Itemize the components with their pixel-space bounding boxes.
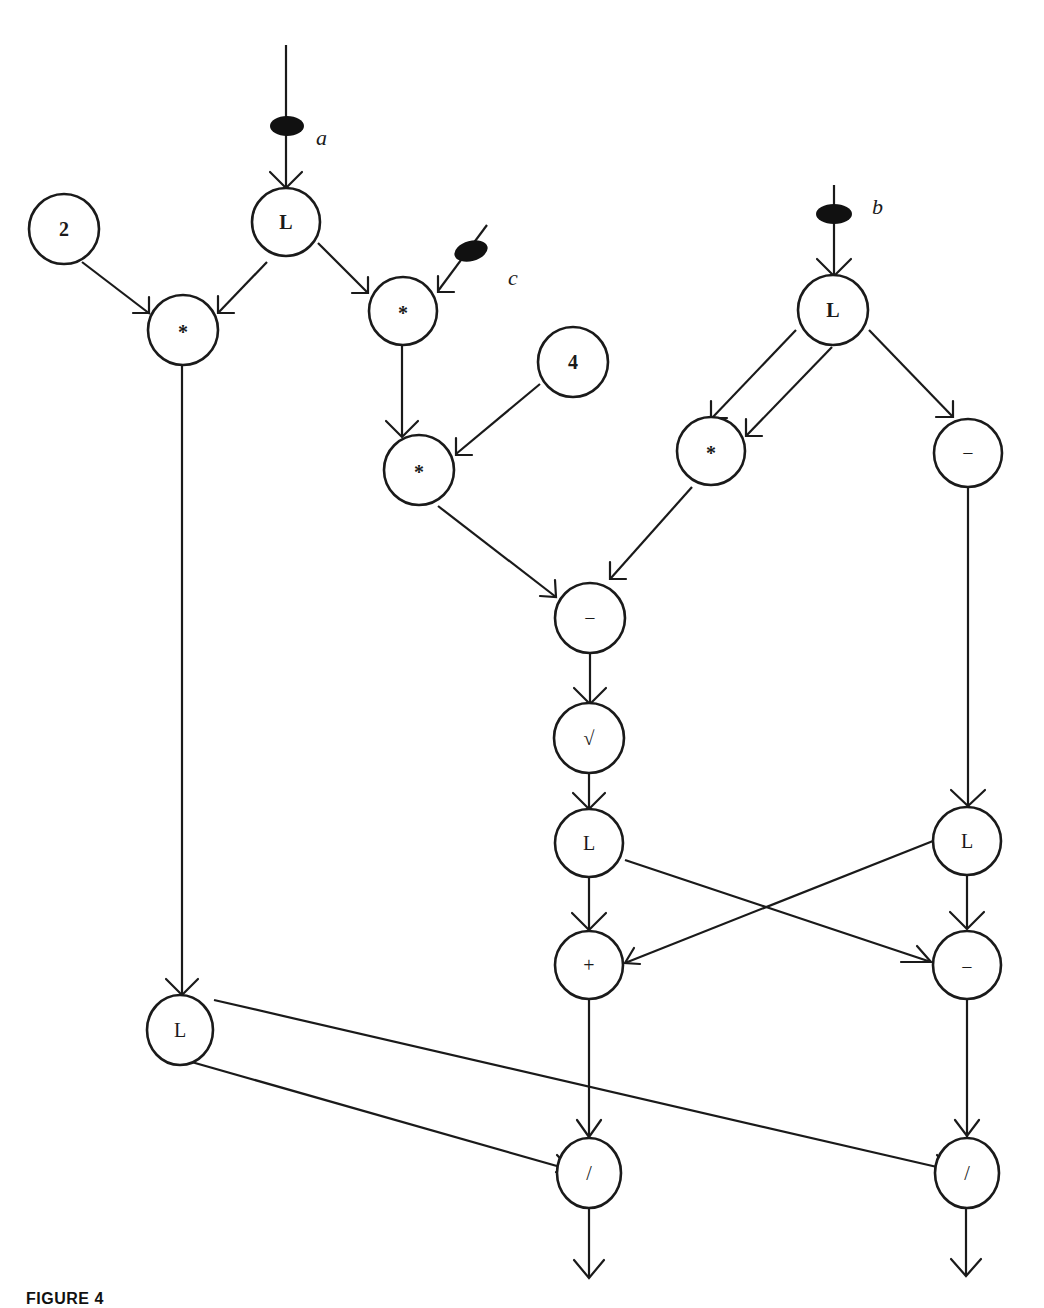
svg-text:−: −: [962, 442, 973, 464]
svg-text:2: 2: [59, 218, 69, 240]
edge-l2a-to-div1: [160, 1053, 571, 1170]
edge-lb-to-mulbb-2: [747, 347, 832, 435]
svg-text:+: +: [583, 954, 594, 976]
edge-lb-to-negb: [869, 330, 953, 417]
node-divide-1: /: [557, 1138, 621, 1208]
edge-lsqrt-to-sub: [625, 860, 931, 962]
svg-text:*: *: [398, 302, 408, 324]
input-label-a: a: [316, 125, 327, 150]
svg-text:/: /: [964, 1162, 970, 1184]
input-label-c: c: [508, 265, 518, 290]
node-multiply-4ac: *: [384, 435, 454, 505]
token-a-icon: [270, 116, 304, 136]
node-constant-4: 4: [538, 327, 608, 397]
node-constant-2: 2: [29, 194, 99, 264]
edge-2-to-mul: [82, 262, 150, 314]
figure-caption: FIGURE 4: [26, 1290, 104, 1308]
edge-4-to-mul4ac: [456, 384, 540, 454]
edge-lb-to-mulbb-1: [712, 330, 796, 418]
node-l-sqrt: L: [555, 809, 623, 877]
edge-la-to-mulac: [318, 243, 367, 292]
edge-mulbb-to-sub: [611, 487, 692, 578]
svg-text:L: L: [279, 211, 292, 233]
svg-text:−: −: [584, 607, 595, 629]
svg-text:L: L: [583, 832, 595, 854]
nodes: 2 L * * 4 * L *: [29, 188, 1002, 1208]
node-add: +: [555, 931, 623, 999]
svg-text:L: L: [826, 299, 839, 321]
svg-text:L: L: [174, 1019, 186, 1041]
node-l-b: L: [798, 275, 868, 345]
edges: [82, 45, 985, 1278]
svg-text:*: *: [706, 442, 716, 464]
node-negate-b: −: [934, 419, 1002, 487]
node-subtract: −: [933, 931, 1001, 999]
svg-text:√: √: [584, 727, 595, 749]
edge-lnegb-to-add: [625, 841, 933, 963]
svg-text:/: /: [586, 1162, 592, 1184]
node-l-negb: L: [933, 807, 1001, 875]
node-multiply-bb: *: [677, 417, 745, 485]
node-l-a: L: [252, 188, 320, 256]
svg-text:4: 4: [568, 351, 578, 373]
svg-text:−: −: [961, 956, 972, 978]
node-multiply-2a: *: [148, 295, 218, 365]
token-c-icon: [452, 237, 490, 265]
input-label-b: b: [872, 194, 883, 219]
svg-text:*: *: [178, 321, 188, 343]
node-square-root: √: [554, 703, 624, 773]
svg-text:*: *: [414, 461, 424, 483]
node-subtract-discriminant: −: [555, 583, 625, 653]
svg-text:L: L: [961, 830, 973, 852]
edge-la-to-mul2a: [219, 262, 267, 312]
token-b-icon: [816, 204, 852, 224]
node-divide-2: /: [935, 1138, 999, 1208]
edge-mul4ac-to-sub: [438, 506, 556, 597]
tokens: a b c: [270, 116, 883, 290]
node-multiply-ac: *: [369, 277, 437, 345]
node-l-2a: L: [147, 995, 213, 1065]
